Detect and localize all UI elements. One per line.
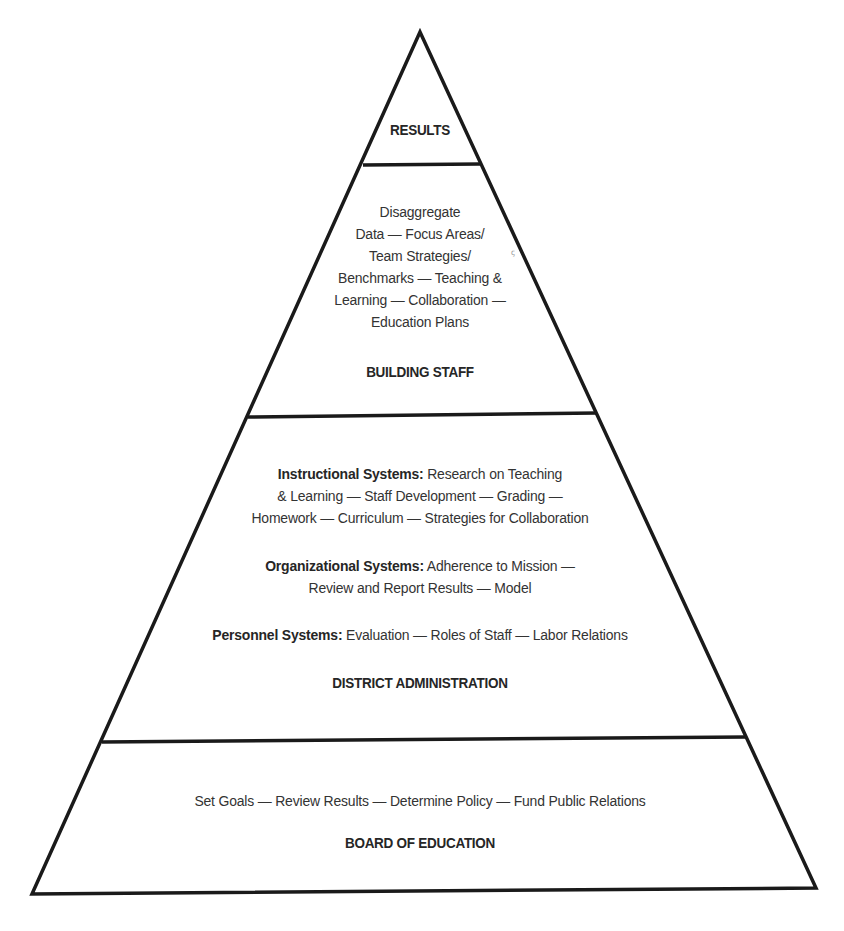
- instructional-systems-line-1: Instructional Systems: Research on Teach…: [150, 463, 690, 485]
- personnel-systems-text: Evaluation — Roles of Staff — Labor Rela…: [346, 626, 628, 643]
- instructional-systems-line-2: & Learning — Staff Development — Grading…: [150, 485, 690, 507]
- divider-results: [363, 164, 480, 165]
- building-staff-line: Team Strategies/: [240, 245, 600, 267]
- organizational-systems: Organizational Systems: Adherence to Mis…: [150, 555, 690, 599]
- board-of-education-description: Set Goals — Review Results — Determine P…: [105, 790, 735, 812]
- organizational-systems-title: Organizational Systems:: [265, 557, 424, 574]
- organizational-systems-line-1: Organizational Systems: Adherence to Mis…: [150, 555, 690, 577]
- tier-label-board-of-education: BOARD OF EDUCATION: [240, 834, 600, 851]
- building-staff-line: Disaggregate: [240, 201, 600, 223]
- building-staff-line: Learning — Collaboration —: [240, 289, 600, 311]
- instructional-systems-title: Instructional Systems:: [278, 465, 424, 482]
- tier-label-results: RESULTS: [330, 121, 510, 138]
- instructional-systems-text: Research on Teaching: [427, 465, 562, 482]
- organizational-systems-text: Adherence to Mission —: [427, 557, 575, 574]
- personnel-systems-line-1: Personnel Systems: Evaluation — Roles of…: [150, 624, 690, 646]
- organizational-systems-line-2: Review and Report Results — Model: [150, 577, 690, 599]
- tier-label-building-staff: BUILDING STAFF: [285, 363, 555, 380]
- building-staff-description: Disaggregate Data — Focus Areas/ Team St…: [240, 201, 600, 333]
- building-staff-line: Education Plans: [240, 311, 600, 333]
- personnel-systems: Personnel Systems: Evaluation — Roles of…: [150, 624, 690, 646]
- personnel-systems-title: Personnel Systems:: [212, 626, 342, 643]
- tier-label-district-administration: DISTRICT ADMINISTRATION: [240, 674, 600, 691]
- instructional-systems: Instructional Systems: Research on Teach…: [150, 463, 690, 529]
- instructional-systems-line-3: Homework — Curriculum — Strategies for C…: [150, 507, 690, 529]
- building-staff-line: Data — Focus Areas/: [240, 223, 600, 245]
- building-staff-line: Benchmarks — Teaching &: [240, 267, 600, 289]
